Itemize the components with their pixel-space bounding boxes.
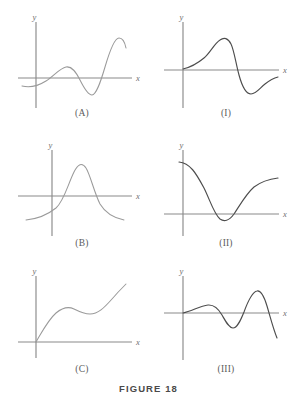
panel-i-plot: y x bbox=[152, 12, 297, 116]
y-axis-label: y bbox=[179, 140, 184, 150]
panel-c: y x (C) bbox=[8, 268, 156, 393]
panel-i-label: (I) bbox=[152, 108, 297, 118]
panel-a: y x (A) bbox=[8, 12, 156, 137]
panel-a-plot: y x bbox=[8, 12, 156, 116]
x-axis-label: x bbox=[282, 209, 287, 219]
panel-b-label: (B) bbox=[8, 238, 156, 248]
y-axis-label: y bbox=[179, 12, 184, 22]
panel-c-plot: y x bbox=[8, 268, 156, 372]
x-axis-label: x bbox=[282, 65, 287, 75]
curve-i bbox=[183, 38, 278, 94]
curve-ii bbox=[179, 162, 278, 221]
y-axis-label: y bbox=[179, 266, 184, 276]
curve-b bbox=[26, 165, 124, 220]
x-axis-label: x bbox=[282, 308, 287, 318]
y-axis-label: y bbox=[32, 266, 37, 276]
panel-i: y x (I) bbox=[152, 12, 297, 137]
y-axis-label: y bbox=[48, 140, 53, 150]
panel-c-label: (C) bbox=[8, 364, 156, 374]
panel-ii: y x (II) bbox=[152, 142, 297, 267]
curve-c bbox=[36, 284, 126, 342]
curve-iii bbox=[183, 291, 277, 338]
y-axis-label: y bbox=[32, 12, 37, 22]
panel-ii-plot: y x bbox=[152, 142, 297, 246]
panel-iii: y x (III) bbox=[152, 268, 297, 393]
x-axis-label: x bbox=[135, 73, 140, 83]
figure-18: y x (A) y x (I) y x (B) y x bbox=[0, 0, 297, 413]
curve-a bbox=[22, 38, 126, 95]
panel-ii-label: (II) bbox=[152, 238, 297, 248]
x-axis-label: x bbox=[135, 191, 140, 201]
figure-caption: FIGURE 18 bbox=[0, 383, 297, 394]
panel-iii-label: (III) bbox=[152, 364, 297, 374]
panel-iii-plot: y x bbox=[152, 268, 297, 372]
panel-a-label: (A) bbox=[8, 108, 156, 118]
x-axis-label: x bbox=[135, 337, 140, 347]
panel-b: y x (B) bbox=[8, 142, 156, 267]
panel-b-plot: y x bbox=[8, 142, 156, 246]
